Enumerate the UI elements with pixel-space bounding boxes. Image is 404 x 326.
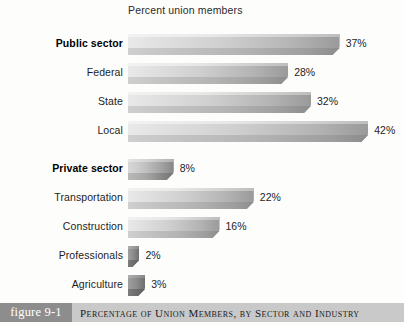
bar-category-label: Transportation <box>0 191 123 203</box>
bar-row: Public sector37% <box>0 34 404 56</box>
bar <box>128 121 368 142</box>
figure-container: Percent union members Public sector37%Fe… <box>0 0 404 326</box>
bar-top-highlight <box>128 188 254 191</box>
bar-category-label: Private sector <box>0 162 123 174</box>
bar-category-label: Agriculture <box>0 278 123 290</box>
bar <box>128 159 174 180</box>
bar-bottom-face <box>128 77 288 84</box>
bar-bottom-face <box>128 289 145 296</box>
bar <box>128 275 145 296</box>
bar-bottom-face <box>128 202 254 209</box>
bar-value-label: 22% <box>260 191 281 203</box>
bar-top-highlight <box>128 121 368 124</box>
bar-category-label: Local <box>0 124 123 136</box>
bar-top-highlight <box>128 246 139 249</box>
bar-top-highlight <box>128 92 311 95</box>
bar-value-label: 2% <box>145 249 160 261</box>
bar-bottom-face <box>128 106 311 113</box>
bar-row: Federal28% <box>0 63 404 85</box>
bar-row: Professionals2% <box>0 246 404 268</box>
bar-value-label: 37% <box>346 37 367 49</box>
bar-top-highlight <box>128 217 220 220</box>
bar-bottom-face <box>128 48 340 55</box>
bar <box>128 188 254 209</box>
bar-category-label: Public sector <box>0 37 123 49</box>
bar-value-label: 28% <box>294 66 315 78</box>
bar-bottom-face <box>128 173 174 180</box>
bar-row: State32% <box>0 92 404 114</box>
bar-chart-plot-area: Public sector37%Federal28%State32%Local4… <box>0 26 404 296</box>
bar-top-highlight <box>128 275 145 278</box>
bar-top-highlight <box>128 63 288 66</box>
bar-category-label: Construction <box>0 220 123 232</box>
bar-row: Private sector8% <box>0 159 404 181</box>
figure-caption-text: Percentage of Union Members, by Sector a… <box>80 307 360 319</box>
chart-title: Percent union members <box>128 4 243 16</box>
figure-caption-bar: figure 9-1 Percentage of Union Members, … <box>0 303 404 322</box>
bar-bottom-face <box>128 231 220 238</box>
bar-value-label: 42% <box>374 124 395 136</box>
bar <box>128 34 340 55</box>
bar-top-highlight <box>128 34 340 37</box>
bar-row: Construction16% <box>0 217 404 239</box>
bar-bottom-face <box>128 260 139 267</box>
bar <box>128 92 311 113</box>
bar-row: Agriculture3% <box>0 275 404 297</box>
bar-row: Local42% <box>0 121 404 143</box>
bar <box>128 63 288 84</box>
bar-row: Transportation22% <box>0 188 404 210</box>
bar-bottom-face <box>128 135 368 142</box>
bar-category-label: State <box>0 95 123 107</box>
bar-value-label: 3% <box>151 278 166 290</box>
bar-value-label: 16% <box>226 220 247 232</box>
bar <box>128 246 139 267</box>
bar <box>128 217 220 238</box>
caption-strip: Percentage of Union Members, by Sector a… <box>72 303 404 322</box>
bar-top-highlight <box>128 159 174 162</box>
bar-category-label: Federal <box>0 66 123 78</box>
bar-value-label: 8% <box>180 162 195 174</box>
bar-category-label: Professionals <box>0 249 123 261</box>
bar-value-label: 32% <box>317 95 338 107</box>
figure-number-tag: figure 9-1 <box>0 303 72 322</box>
